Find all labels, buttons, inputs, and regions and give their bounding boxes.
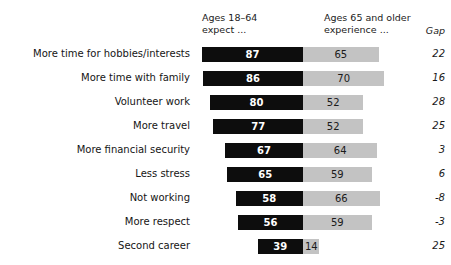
chart-row: Volunteer work805228 <box>0 92 451 112</box>
bar-expect: 67 <box>225 143 303 158</box>
bar-expect: 39 <box>258 239 303 254</box>
row-gap-value: -8 <box>405 188 445 208</box>
chart-row: More respect5659-3 <box>0 212 451 232</box>
bar-value-expect: 65 <box>227 167 303 182</box>
row-label: More travel <box>0 116 190 136</box>
bar-value-experience: 14 <box>305 239 318 254</box>
bar-experience: 59 <box>303 215 372 230</box>
bar-experience: 64 <box>303 143 377 158</box>
row-gap-value: -3 <box>405 212 445 232</box>
paired-bar-chart: Ages 18–64 expect ... Ages 65 and older … <box>0 0 451 265</box>
row-label: More respect <box>0 212 190 232</box>
bar-experience: 52 <box>303 95 363 110</box>
chart-row: More financial security67643 <box>0 140 451 160</box>
chart-row: Second career391425 <box>0 236 451 256</box>
row-label: Less stress <box>0 164 190 184</box>
bar-experience: 65 <box>303 47 379 62</box>
bar-value-expect: 86 <box>203 71 303 86</box>
row-label: Not working <box>0 188 190 208</box>
row-label: More time for hobbies/interests <box>0 44 190 64</box>
bar-experience: 14 <box>303 239 319 254</box>
bar-value-experience: 66 <box>303 191 380 206</box>
bar-experience: 70 <box>303 71 384 86</box>
bar-value-experience: 59 <box>303 167 372 182</box>
bar-value-expect: 39 <box>258 239 303 254</box>
bar-value-experience: 52 <box>303 119 363 134</box>
bar-value-experience: 59 <box>303 215 372 230</box>
bar-expect: 58 <box>236 191 303 206</box>
column-header-gap: Gap <box>426 25 445 36</box>
chart-row: More time for hobbies/interests876522 <box>0 44 451 64</box>
bar-experience: 59 <box>303 167 372 182</box>
row-label: Volunteer work <box>0 92 190 112</box>
bar-expect: 87 <box>202 47 303 62</box>
bar-value-experience: 52 <box>303 95 363 110</box>
row-gap-value: 25 <box>405 236 445 256</box>
bar-value-experience: 64 <box>303 143 377 158</box>
bar-value-expect: 80 <box>210 95 303 110</box>
chart-row: Less stress65596 <box>0 164 451 184</box>
row-gap-value: 16 <box>405 68 445 88</box>
bar-value-expect: 58 <box>236 191 303 206</box>
bar-value-expect: 67 <box>225 143 303 158</box>
column-header-expect: Ages 18–64 expect ... <box>202 12 320 35</box>
bar-expect: 65 <box>227 167 303 182</box>
row-gap-value: 28 <box>405 92 445 112</box>
row-gap-value: 22 <box>405 44 445 64</box>
bar-experience: 52 <box>303 119 363 134</box>
row-gap-value: 3 <box>405 140 445 160</box>
row-label: Second career <box>0 236 190 256</box>
row-label: More financial security <box>0 140 190 160</box>
bar-expect: 86 <box>203 71 303 86</box>
chart-row: More travel775225 <box>0 116 451 136</box>
bar-value-experience: 65 <box>303 47 379 62</box>
bar-value-expect: 56 <box>238 215 303 230</box>
bar-expect: 77 <box>213 119 303 134</box>
row-gap-value: 25 <box>405 116 445 136</box>
bar-value-expect: 77 <box>213 119 303 134</box>
bar-expect: 80 <box>210 95 303 110</box>
bar-value-experience: 70 <box>303 71 384 86</box>
row-gap-value: 6 <box>405 164 445 184</box>
row-label: More time with family <box>0 68 190 88</box>
chart-row: More time with family867016 <box>0 68 451 88</box>
bar-experience: 66 <box>303 191 380 206</box>
bar-value-expect: 87 <box>202 47 303 62</box>
chart-row: Not working5866-8 <box>0 188 451 208</box>
column-header-experience: Ages 65 and older experience ... <box>324 12 434 35</box>
bar-expect: 56 <box>238 215 303 230</box>
